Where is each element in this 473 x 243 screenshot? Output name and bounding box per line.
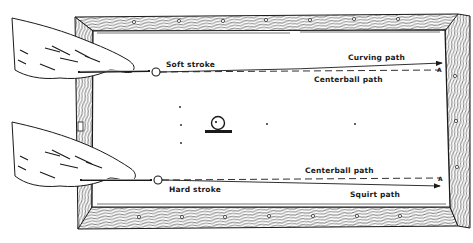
bottom-centerball-path-label: Centerball path bbox=[305, 166, 374, 175]
table-frame bbox=[75, 14, 470, 229]
rail-diamond-icon bbox=[453, 74, 456, 77]
rail-diamond-icon bbox=[454, 119, 457, 122]
bottom-cue-ball-icon bbox=[154, 176, 162, 184]
hard-stroke-label: Hard stroke bbox=[169, 185, 221, 194]
bottom-target-marker: A bbox=[438, 175, 443, 182]
rail-diamond-icon bbox=[177, 19, 180, 22]
pool-deflection-diagram: Soft stroke Curving path Centerball path… bbox=[0, 0, 473, 243]
rail-diamond-icon bbox=[221, 19, 224, 22]
top-cue-ball-icon bbox=[152, 68, 160, 76]
rail-diamond-icon bbox=[352, 17, 355, 20]
curving-path-label: Curving path bbox=[348, 53, 405, 62]
squirt-path-label: Squirt path bbox=[350, 190, 400, 199]
spot-dot bbox=[354, 123, 356, 125]
rail-diamond-icon bbox=[308, 18, 311, 21]
top-target-marker: A bbox=[437, 66, 442, 73]
top-centerball-path-label: Centerball path bbox=[314, 75, 383, 84]
rail-diamond-icon bbox=[355, 214, 358, 217]
rail-diamond-icon bbox=[267, 214, 270, 217]
rail-diamond-icon bbox=[137, 215, 140, 218]
side-pocket-mark bbox=[78, 122, 83, 131]
spot-dot bbox=[179, 106, 181, 108]
rail-diamond-icon bbox=[455, 165, 458, 168]
spot-dot bbox=[180, 142, 182, 144]
rail-diamond-icon bbox=[396, 17, 399, 20]
rail-diamond-icon bbox=[311, 214, 314, 217]
rail-diamond-icon bbox=[398, 214, 401, 217]
diagram-canvas bbox=[0, 0, 473, 243]
rail-diamond-icon bbox=[180, 215, 183, 218]
spot-dot bbox=[266, 123, 268, 125]
soft-stroke-label: Soft stroke bbox=[166, 60, 215, 69]
rail-diamond-icon bbox=[264, 18, 267, 21]
rail-bottom bbox=[78, 207, 458, 229]
spot-dot bbox=[180, 124, 182, 126]
rail-diamond-icon bbox=[223, 215, 226, 218]
rail-diamond-icon bbox=[132, 20, 135, 23]
